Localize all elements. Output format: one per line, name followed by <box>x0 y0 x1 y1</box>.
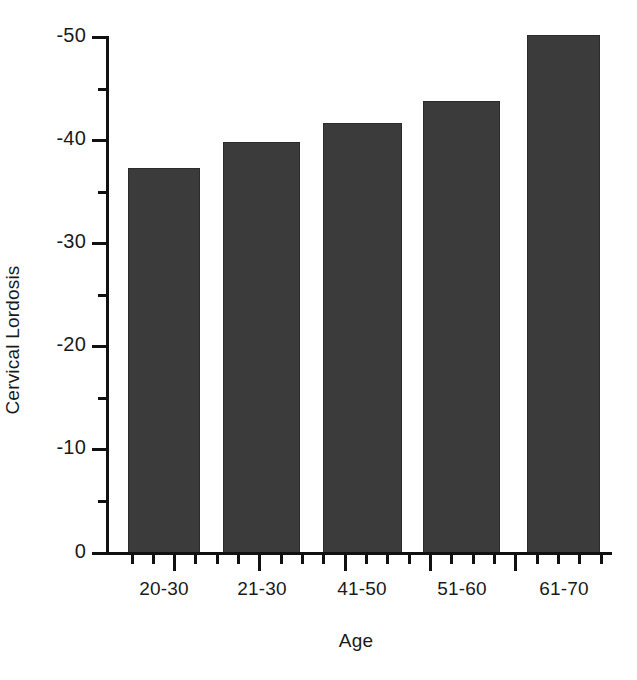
x-tick-major-21-30 <box>258 554 261 571</box>
x-tick-minor-11 <box>408 554 411 564</box>
y-tick-minor-minus35 <box>98 191 109 194</box>
x-tick-minor-5 <box>237 554 240 564</box>
x-tick-minor-13 <box>472 554 475 564</box>
y-tick-major-minus20 <box>92 345 109 348</box>
bar-51-60 <box>423 101 500 553</box>
x-tick-minor-18 <box>600 554 603 564</box>
x-axis-title: Age <box>106 630 606 652</box>
x-tick-major-61-70 <box>514 554 517 571</box>
x-tick-minor-6 <box>280 554 283 564</box>
x-tick-minor-4 <box>216 554 219 564</box>
x-tick-major-41-50 <box>344 554 347 571</box>
y-axis-tick-labels: -50 -40 -30 -20 -10 0 <box>0 0 86 680</box>
y-tick-label-minus20: -20 <box>0 333 86 356</box>
x-tick-label-61-70: 61-70 <box>539 578 589 600</box>
y-tick-minor-minus5 <box>98 500 109 503</box>
x-tick-major-20-30 <box>173 554 176 571</box>
x-tick-minor-1 <box>131 554 134 564</box>
x-tick-major-51-60 <box>429 554 432 571</box>
y-tick-label-minus50: -50 <box>0 24 86 47</box>
y-tick-major-minus10 <box>92 448 109 451</box>
x-tick-minor-3 <box>194 554 197 564</box>
bar-41-50 <box>323 123 402 553</box>
y-tick-minor-minus15 <box>98 397 109 400</box>
bar-20-30 <box>128 168 200 553</box>
x-tick-label-41-50: 41-50 <box>337 578 387 600</box>
y-tick-label-minus10: -10 <box>0 436 86 459</box>
bar-21-30 <box>223 142 300 553</box>
x-tick-minor-7 <box>301 554 304 564</box>
x-tick-minor-15 <box>536 554 539 564</box>
x-tick-minor-8 <box>322 554 325 564</box>
y-tick-label-zero: 0 <box>0 540 86 563</box>
x-tick-minor-17 <box>578 554 581 564</box>
x-tick-minor-14 <box>493 554 496 564</box>
x-tick-label-51-60: 51-60 <box>437 578 487 600</box>
x-tick-label-20-30: 20-30 <box>139 578 189 600</box>
y-tick-label-minus30: -30 <box>0 230 86 253</box>
x-tick-minor-9 <box>365 554 368 564</box>
x-tick-minor-12 <box>450 554 453 564</box>
y-tick-minor-minus45 <box>98 88 109 91</box>
bar-chart-figure: Cervical Lordosis -50 -40 -30 -20 -10 0 <box>0 0 637 680</box>
y-tick-minor-minus25 <box>98 294 109 297</box>
y-tick-major-minus50 <box>92 36 109 39</box>
y-tick-major-minus30 <box>92 242 109 245</box>
x-tick-label-21-30: 21-30 <box>237 578 287 600</box>
y-tick-major-minus40 <box>92 139 109 142</box>
x-tick-minor-2 <box>152 554 155 564</box>
bar-61-70 <box>527 35 600 553</box>
x-tick-minor-10 <box>386 554 389 564</box>
y-tick-label-minus40: -40 <box>0 127 86 150</box>
x-tick-minor-16 <box>557 554 560 564</box>
